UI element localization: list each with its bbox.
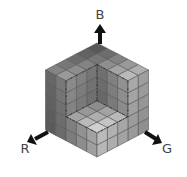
g-axis-arrow-icon [145,132,162,145]
r-axis-label: R [20,141,29,156]
rgb-cube-diagram: B R G [0,0,187,177]
b-axis-label: B [96,7,105,22]
g-axis-label: G [162,141,172,156]
r-axis-arrow-icon [27,132,48,145]
b-axis-arrow-icon [94,24,106,44]
color-cube [46,43,149,157]
